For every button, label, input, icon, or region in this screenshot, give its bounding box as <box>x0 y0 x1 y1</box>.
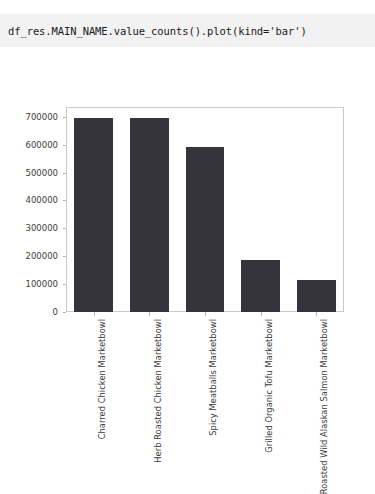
x-tick-label: Roasted Wild Alaskan Salmon Marketbowl <box>319 319 329 494</box>
y-tick-mark <box>63 312 67 313</box>
x-tick-label: Charred Chicken Marketbowl <box>97 319 107 439</box>
y-tick-label: 0 <box>0 307 58 317</box>
y-tick-label: 400000 <box>0 195 58 205</box>
code-cell[interactable]: df_res.MAIN_NAME.value_counts().plot(kin… <box>0 14 375 47</box>
x-tick-mark <box>94 312 95 316</box>
bar <box>130 118 169 312</box>
x-tick-label: Grilled Organic Tofu Marketbowl <box>264 319 274 453</box>
y-tick-mark <box>63 200 67 201</box>
bar <box>241 260 280 312</box>
x-tick-mark <box>316 312 317 316</box>
y-tick-label: 600000 <box>0 140 58 150</box>
x-tick-mark <box>149 312 150 316</box>
bar <box>186 147 225 312</box>
x-tick-label: Herb Roasted Chicken Marketbowl <box>153 319 163 463</box>
y-tick-label: 300000 <box>0 223 58 233</box>
y-tick-mark <box>63 117 67 118</box>
bar <box>297 280 336 312</box>
x-tick-mark <box>261 312 262 316</box>
y-tick-label: 100000 <box>0 279 58 289</box>
y-tick-mark <box>63 228 67 229</box>
y-tick-mark <box>63 256 67 257</box>
code-cell-text: df_res.MAIN_NAME.value_counts().plot(kin… <box>0 25 307 37</box>
bar <box>74 118 113 312</box>
y-tick-mark <box>63 284 67 285</box>
y-tick-mark <box>63 145 67 146</box>
y-tick-label: 500000 <box>0 168 58 178</box>
y-tick-mark <box>63 173 67 174</box>
x-tick-label: Spicy Meatballs Marketbowl <box>208 319 218 436</box>
bar-chart-figure: 0100000200000300000400000500000600000700… <box>0 47 375 437</box>
y-tick-label: 700000 <box>0 112 58 122</box>
y-tick-label: 200000 <box>0 251 58 261</box>
x-tick-mark <box>205 312 206 316</box>
